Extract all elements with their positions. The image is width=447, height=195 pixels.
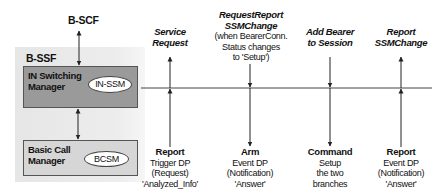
report-ssmchange-label: Report SSMChange bbox=[366, 27, 436, 48]
report-event-dp-label: Report Event DP (Notification) 'Answer' bbox=[363, 147, 439, 189]
add-bearer-label: Add Bearer to Session bbox=[295, 27, 365, 48]
in-switching-manager-box: IN Switching Manager IN-SSM bbox=[23, 66, 138, 108]
arm-event-dp-label: Arm Event DP (Notification) 'Answer' bbox=[212, 147, 288, 189]
in-ssm-ellipse: IN-SSM bbox=[88, 76, 132, 93]
basic-call-manager-title: Basic Call Manager bbox=[28, 144, 70, 166]
command-setup-label: Command Setup the two branches bbox=[295, 147, 365, 189]
service-request-label: Service Request bbox=[140, 27, 200, 48]
request-report-ssmchange-label: RequestReport SSMChange (when BearerConn… bbox=[205, 10, 297, 63]
b-scf-label: B-SCF bbox=[68, 14, 99, 26]
in-switching-manager-title: IN Switching Manager bbox=[28, 70, 81, 92]
basic-call-manager-box: Basic Call Manager BCSM bbox=[23, 140, 138, 176]
b-ssf-label: B-SSF bbox=[26, 52, 56, 64]
report-trigger-dp-label: Report Trigger DP (Request) 'Analyzed_In… bbox=[130, 147, 210, 189]
bcsm-ellipse: BCSM bbox=[84, 151, 129, 167]
